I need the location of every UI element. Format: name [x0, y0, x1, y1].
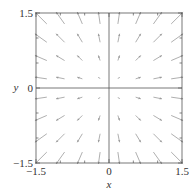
field-arrow: [171, 12, 183, 24]
arrowhead-icon: [138, 77, 140, 79]
y-axis-label: y: [13, 81, 19, 93]
x-axis-label: x: [106, 178, 112, 190]
field-arrow: [35, 152, 47, 164]
arrowhead-icon: [77, 77, 79, 79]
arrowhead-icon: [98, 118, 100, 120]
y-tick-label: −1.5: [13, 157, 33, 169]
x-tick-label: 1.5: [175, 165, 189, 177]
arrowhead-icon: [118, 55, 120, 57]
x-tick-label: 0: [106, 165, 112, 177]
field-arrow: [35, 12, 47, 24]
tick-labels: −1.501.5−1.501.5: [13, 7, 189, 177]
field-arrow: [171, 152, 183, 164]
arrowhead-icon: [138, 97, 140, 99]
arrowhead-icon: [98, 55, 100, 57]
arrowhead-icon: [118, 118, 120, 120]
y-tick-label: 1.5: [19, 7, 33, 19]
y-tick-label: 0: [28, 82, 34, 94]
arrowhead-icon: [77, 97, 79, 99]
vector-field-plot: −1.501.5−1.501.5 x y: [0, 0, 191, 194]
